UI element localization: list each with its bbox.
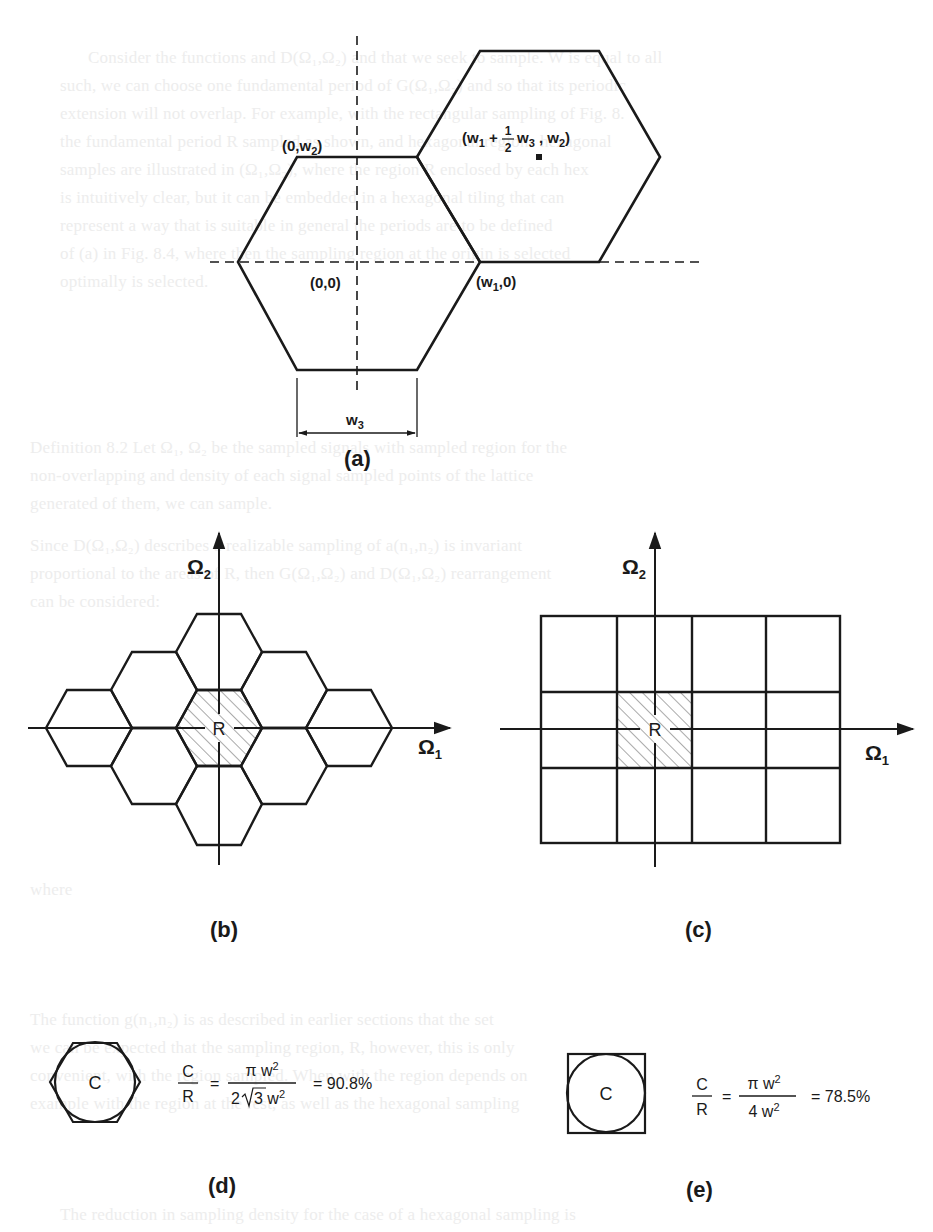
circle-label-c: C — [600, 1084, 613, 1104]
efficiency-formula-hex: C R = π w2 2 3 w2 = 90.8% — [178, 1060, 372, 1107]
hexagon-base — [238, 157, 480, 370]
svg-text:= 90.8%: = 90.8% — [313, 1075, 372, 1092]
efficiency-formula-square: C R = π w2 4 w2 = 78.5% — [692, 1073, 870, 1120]
label-0-w2: (0,w2) — [282, 137, 322, 157]
svg-text:3 w2: 3 w2 — [254, 1088, 285, 1107]
region-label-r: R — [649, 720, 662, 740]
panel-label-c: (c) — [685, 917, 712, 942]
panel-label-a: (a) — [344, 446, 371, 471]
panel-label-e: (e) — [686, 1177, 713, 1202]
label-w1-0: (w1,0) — [476, 273, 516, 293]
axis-label-omega2: Ω2 — [187, 555, 211, 582]
axis-label-omega1: Ω1 — [418, 735, 442, 762]
svg-text:R: R — [696, 1101, 708, 1118]
svg-text:2: 2 — [505, 141, 512, 155]
svg-text:π w2: π w2 — [747, 1073, 780, 1092]
region-label-r: R — [213, 719, 226, 739]
panel-b: R Ω1 Ω2 (b) — [28, 533, 450, 942]
panel-e: C C R = π w2 4 w2 = 78.5% (e) — [567, 1054, 870, 1202]
center-point-marker — [536, 154, 542, 160]
svg-text:R: R — [182, 1088, 194, 1105]
svg-text:2: 2 — [231, 1090, 240, 1107]
axis-label-omega1: Ω1 — [865, 741, 889, 768]
axis-label-omega2: Ω2 — [622, 555, 646, 582]
svg-text:(w1 +: (w1 + — [462, 129, 498, 149]
svg-text:=: = — [722, 1088, 731, 1105]
svg-text:C: C — [182, 1063, 194, 1080]
svg-text:=: = — [210, 1075, 219, 1092]
panel-c: R Ω1 Ω2 (c) — [500, 533, 913, 942]
panel-label-d: (d) — [208, 1173, 236, 1198]
dim-label-w3: w3 — [345, 411, 364, 431]
panel-a: (0,w2) (0,0) (w1,0) (w1 + 1 2 w3 , w2) w… — [210, 36, 705, 471]
svg-text:1: 1 — [505, 124, 512, 138]
label-hex-center: (w1 + 1 2 w3 , w2) — [462, 124, 570, 155]
svg-text:π w2: π w2 — [245, 1060, 278, 1079]
circle-label-c: C — [89, 1073, 102, 1093]
svg-text:= 78.5%: = 78.5% — [811, 1088, 870, 1105]
panel-d: C C R = π w2 2 3 w2 = 90.8% (d) — [50, 1042, 372, 1198]
panel-label-b: (b) — [210, 917, 238, 942]
svg-text:w3 , w2): w3 , w2) — [516, 129, 570, 149]
svg-text:C: C — [696, 1076, 708, 1093]
sampling-figure: (0,w2) (0,0) (w1,0) (w1 + 1 2 w3 , w2) w… — [0, 0, 933, 1232]
svg-text:4 w2: 4 w2 — [748, 1101, 779, 1120]
label-origin: (0,0) — [310, 274, 341, 291]
